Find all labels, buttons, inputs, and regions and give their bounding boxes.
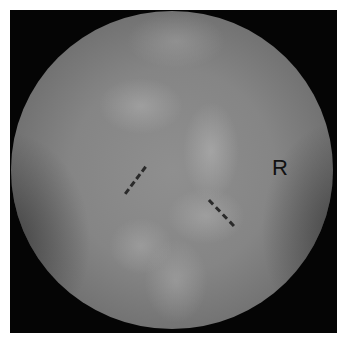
right-shadow	[261, 121, 333, 329]
image-frame: R	[10, 10, 337, 333]
left-shadow	[11, 131, 91, 329]
orientation-label: R	[272, 157, 288, 179]
